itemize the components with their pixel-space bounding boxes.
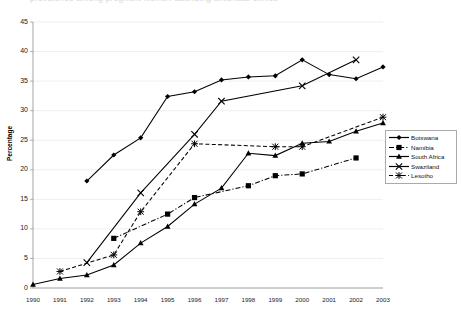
x-tick-label: 1993 — [99, 296, 129, 303]
y-tick-label: 25 — [12, 136, 28, 143]
data-point-star — [299, 143, 306, 150]
series-line — [33, 123, 383, 284]
data-point-cross — [84, 259, 90, 265]
data-point-triangle — [245, 150, 251, 155]
legend-label: Namibia — [410, 144, 434, 151]
x-tick-label: 1998 — [233, 296, 263, 303]
x-tick-label: 2001 — [314, 296, 344, 303]
legend-item-namibia[interactable]: Namibia — [388, 143, 454, 153]
legend-marker-cross-icon — [388, 162, 410, 171]
data-point-square — [273, 173, 278, 178]
data-point-square — [165, 212, 170, 217]
y-tick-label: 15 — [12, 195, 28, 202]
legend-label: South Africa — [410, 153, 444, 160]
clipped-title: prevalence among pregnant women attendin… — [30, 0, 430, 5]
data-point-square — [192, 195, 197, 200]
legend-item-botswana[interactable]: Botswana — [388, 133, 454, 143]
legend-marker-triangle-icon — [388, 152, 410, 161]
data-point-diamond — [138, 135, 143, 140]
x-tick-label: 2000 — [287, 296, 317, 303]
x-tick-label: 1995 — [153, 296, 183, 303]
data-point-triangle — [138, 240, 144, 245]
data-point-star — [191, 140, 198, 147]
data-point-diamond — [300, 57, 305, 62]
series-botswana — [84, 57, 385, 183]
data-point-star — [380, 114, 387, 121]
y-tick-label: 40 — [12, 47, 28, 54]
y-tick-label: 0 — [12, 284, 28, 291]
data-point-star — [137, 208, 144, 215]
data-point-square — [396, 145, 401, 150]
data-point-cross — [191, 131, 197, 137]
data-point-triangle — [192, 201, 198, 206]
legend-marker-square-icon — [388, 143, 410, 152]
data-point-cross — [137, 190, 143, 196]
y-tick-label: 45 — [12, 18, 28, 25]
legend-marker-diamond-icon — [388, 133, 410, 142]
data-point-square — [111, 236, 116, 241]
x-tick-label: 2002 — [341, 296, 371, 303]
data-point-diamond — [396, 135, 401, 140]
data-point-diamond — [219, 77, 224, 82]
legend-item-swaziland[interactable]: Swaziland — [388, 162, 454, 172]
x-tick-label: 1990 — [18, 296, 48, 303]
legend-item-lesotho[interactable]: Lesotho — [388, 171, 454, 181]
data-point-diamond — [165, 94, 170, 99]
legend-marker-star-icon — [388, 171, 410, 180]
data-point-triangle — [380, 120, 386, 125]
x-tick-label: 1991 — [45, 296, 75, 303]
data-point-star — [110, 251, 117, 258]
data-point-cross — [353, 57, 359, 63]
series-swaziland — [84, 57, 360, 266]
data-point-diamond — [353, 76, 358, 81]
chart-container: prevalence among pregnant women attendin… — [0, 0, 461, 318]
y-tick-label: 5 — [12, 254, 28, 261]
x-tick-label: 1999 — [260, 296, 290, 303]
data-point-square — [246, 183, 251, 188]
data-point-star — [396, 172, 403, 179]
series-south-africa — [30, 120, 386, 287]
x-tick-label: 1996 — [180, 296, 210, 303]
data-point-diamond — [192, 89, 197, 94]
y-tick-label: 35 — [12, 77, 28, 84]
data-point-square — [300, 171, 305, 176]
legend-label: Swaziland — [410, 163, 439, 170]
data-point-square — [353, 155, 358, 160]
axis-lines — [30, 22, 383, 288]
gridlines — [33, 22, 383, 288]
legend-label: Lesotho — [410, 172, 433, 179]
series-layer — [30, 57, 386, 287]
x-tick-label: 1994 — [126, 296, 156, 303]
data-point-diamond — [273, 73, 278, 78]
series-lesotho — [57, 114, 387, 275]
x-tick-label: 2003 — [368, 296, 398, 303]
x-tick-label: 1997 — [206, 296, 236, 303]
x-tick-label: 1992 — [72, 296, 102, 303]
legend-label: Botswana — [410, 134, 438, 141]
data-point-star — [57, 268, 64, 275]
data-point-diamond — [380, 64, 385, 69]
data-point-star — [272, 143, 279, 150]
y-tick-label: 20 — [12, 165, 28, 172]
legend: BotswanaNamibiaSouth AfricaSwazilandLeso… — [385, 130, 457, 184]
data-point-diamond — [246, 74, 251, 79]
legend-item-south-africa[interactable]: South Africa — [388, 152, 454, 162]
y-tick-label: 10 — [12, 224, 28, 231]
y-tick-label: 30 — [12, 106, 28, 113]
series-namibia — [111, 155, 359, 241]
